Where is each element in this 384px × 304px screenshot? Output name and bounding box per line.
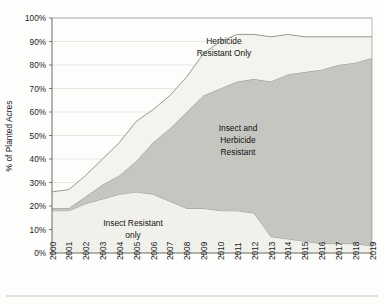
x-tick-label-2019: 2019 <box>369 241 378 260</box>
x-tick-label-2011: 2011 <box>234 242 243 260</box>
x-tick-label-2006: 2006 <box>150 241 159 260</box>
annotation-herbicide-only-line2: Resistant Only <box>197 48 252 58</box>
y-tick-label-0: 0% <box>34 249 46 258</box>
stacked-area-chart: 0%10%20%30%40%50%60%70%80%90%100% 200020… <box>0 0 384 304</box>
x-tick-label-2015: 2015 <box>301 241 310 260</box>
x-tick-label-2003: 2003 <box>99 241 108 260</box>
x-tick-label-2004: 2004 <box>116 241 125 260</box>
y-tick-label-90: 90% <box>30 38 46 47</box>
y-tick-label-20: 20% <box>30 202 46 211</box>
y-tick-label-70: 70% <box>30 85 46 94</box>
x-tick-label-2010: 2010 <box>217 241 226 260</box>
y-tick-label-10: 10% <box>30 226 46 235</box>
x-tick-label-2012: 2012 <box>251 241 260 260</box>
y-tick-label-30: 30% <box>30 179 46 188</box>
chart-canvas: 0%10%20%30%40%50%60%70%80%90%100% 200020… <box>0 0 384 304</box>
x-tick-label-2007: 2007 <box>166 241 175 260</box>
x-tick-label-2002: 2002 <box>82 241 91 260</box>
annotation-insect-only-line2: only <box>125 230 141 240</box>
y-tick-label-100: 100% <box>25 14 46 23</box>
annotation-stacked-line2: Herbicide <box>220 135 256 145</box>
x-tick-label-2009: 2009 <box>200 241 209 260</box>
x-tick-label-2005: 2005 <box>133 241 142 260</box>
annotation-stacked-line1: Insect and <box>219 123 258 133</box>
y-tick-label-40: 40% <box>30 155 46 164</box>
chart-svg: 0%10%20%30%40%50%60%70%80%90%100% 200020… <box>0 0 384 304</box>
annotation-stacked-line3: Resistant <box>221 147 257 157</box>
x-tick-label-2013: 2013 <box>268 241 277 260</box>
x-tick-label-2017: 2017 <box>335 241 344 260</box>
x-tick-label-2008: 2008 <box>183 241 192 260</box>
x-tick-label-2001: 2001 <box>65 241 74 260</box>
y-tick-label-50: 50% <box>30 132 46 141</box>
annotation-insect-only-line1: Insect Resistant <box>103 218 163 228</box>
x-tick-label-2016: 2016 <box>318 241 327 260</box>
y-tick-label-60: 60% <box>30 108 46 117</box>
x-tick-label-2000: 2000 <box>49 241 58 260</box>
y-axis-title: % of Planted Acres <box>4 101 14 172</box>
annotation-herbicide-only-line1: Herbicide <box>206 36 242 46</box>
y-tick-label-80: 80% <box>30 61 46 70</box>
annotation-insect-and-herbicide: Insect and Herbicide Resistant <box>219 123 258 157</box>
x-tick-label-2014: 2014 <box>284 241 293 260</box>
x-tick-label-2018: 2018 <box>352 241 361 260</box>
